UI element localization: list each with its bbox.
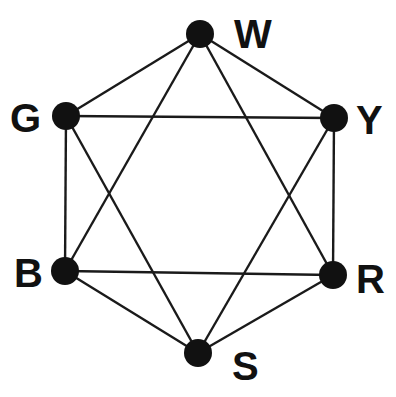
node-label-R: R: [356, 257, 385, 301]
edge-W-G: [66, 34, 200, 116]
node-label-G: G: [10, 96, 41, 140]
node-S: [184, 339, 212, 367]
edge-R-S: [198, 275, 333, 353]
node-G: [52, 102, 80, 130]
node-label-Y: Y: [356, 98, 383, 142]
graph-diagram: WGYBRS: [0, 0, 396, 397]
node-label-S: S: [232, 344, 259, 388]
node-W: [186, 20, 214, 48]
edge-B-R: [65, 271, 333, 275]
graph-svg: WGYBRS: [0, 0, 396, 397]
node-label-W: W: [234, 12, 272, 56]
edge-G-Y: [66, 116, 334, 118]
node-Y: [320, 104, 348, 132]
edge-Y-R: [333, 118, 334, 275]
node-R: [319, 261, 347, 289]
node-B: [51, 257, 79, 285]
edge-B-S: [65, 271, 198, 353]
node-label-B: B: [14, 251, 43, 295]
edge-G-B: [65, 116, 66, 271]
